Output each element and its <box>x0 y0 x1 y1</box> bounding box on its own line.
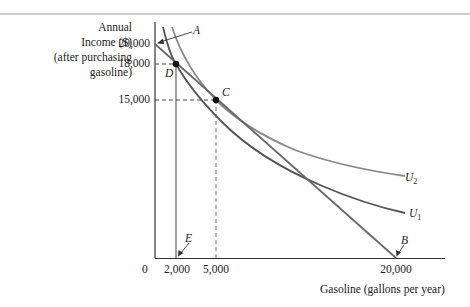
label-u2-subscript: 2 <box>413 177 417 186</box>
label-b: B <box>401 234 408 247</box>
label-d: D <box>165 67 173 80</box>
y-tick-15000: 15,000 <box>100 93 150 106</box>
label-u1-subscript: 1 <box>417 213 421 222</box>
x-tick-2000: 2,000 <box>157 263 197 276</box>
indifference-curve-u1 <box>163 27 405 213</box>
label-c: C <box>222 86 230 99</box>
x-tick-20000: 20,000 <box>376 263 416 276</box>
arrow-a-head <box>157 39 164 45</box>
x-tick-5000: 5,000 <box>196 263 236 276</box>
budget-line <box>155 44 396 258</box>
y-axis-title-line-1: Annual <box>54 20 132 35</box>
y-axis-title: Annual Income ($) (after purchasing gaso… <box>54 20 132 80</box>
indifference-curve-u2 <box>172 27 405 176</box>
y-tick-20000: 20,000 <box>100 37 150 50</box>
label-e: E <box>185 232 192 245</box>
label-u2: U2 <box>405 171 417 188</box>
x-tick-0: 0 <box>142 263 148 276</box>
x-axis-title: Gasoline (gallons per year) <box>320 283 445 296</box>
label-a: A <box>193 24 200 37</box>
label-u1: U1 <box>409 207 421 224</box>
point-c-marker <box>213 97 219 103</box>
point-d-marker <box>173 61 179 67</box>
y-tick-18000: 18,000 <box>100 57 150 70</box>
